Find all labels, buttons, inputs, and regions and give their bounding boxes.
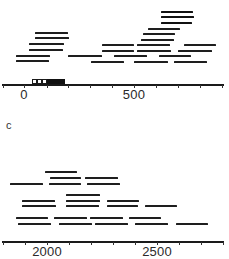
axis-tick [69,242,70,245]
clone-segment [137,50,171,52]
clone-segment [102,44,134,46]
axis-tick [3,242,4,245]
clone-segment [161,11,193,13]
clone-segment [161,22,192,24]
clone-segment [134,61,168,63]
clone-segment [66,200,100,202]
axis-tick [113,242,114,245]
clone-segment [90,217,123,219]
clone-segment [135,223,168,225]
clone-segment [35,32,68,34]
clone-segment [95,223,128,225]
axis-tick [135,242,136,245]
clone-segment [87,183,120,185]
clone-segment [54,217,87,219]
clone-segment [29,43,64,45]
axis-tick-label: 2000 [32,244,62,259]
axis-tick [90,85,91,88]
axis-tick [25,242,26,245]
axis-tick [179,242,180,245]
contig-map-figure: 0500 c 20002500 [0,0,229,259]
axis-tick-label: 500 [123,87,145,102]
clone-segment [148,28,180,30]
clone-segment [50,177,81,179]
clone-segment [114,55,147,57]
clone-segment [68,55,102,57]
panel-label-c: c [6,119,12,131]
clone-segment [10,183,43,185]
clone-segment [178,50,212,52]
clone-segment [129,217,161,219]
axis-tick [201,242,202,245]
axis-tick [223,242,224,245]
clone-segment [184,44,216,46]
axis-tick [112,85,113,88]
axis-line [2,84,224,86]
clone-segment [66,205,99,207]
clone-segment [45,171,77,173]
axis-tick-label: 2500 [142,244,172,259]
clone-segment [137,44,170,46]
clone-segment [159,55,191,57]
clone-segment [16,60,49,62]
axis-tick [68,85,69,88]
axis-tick [222,85,223,88]
clone-segment [16,217,48,219]
axis-tick [178,85,179,88]
axis-tick [91,242,92,245]
clone-segment [18,223,51,225]
clone-segment [141,39,174,41]
axis-tick [156,85,157,88]
clone-segment [59,223,92,225]
clone-segment [85,177,118,179]
clone-segment [49,183,81,185]
clone-segment [102,50,134,52]
axis-tick [200,85,201,88]
clone-segment [107,200,139,202]
clone-segment [176,223,208,225]
clone-segment [22,205,56,207]
axis-tick [47,85,48,88]
clone-segment [35,37,69,39]
scale-marker-filled-block [47,79,65,84]
clone-segment [161,16,194,18]
clone-segment [16,55,50,57]
clone-segment [66,194,100,196]
axis-tick [3,85,4,88]
clone-segment [29,49,63,51]
clone-segment [22,200,55,202]
clone-segment [145,205,177,207]
clone-segment [91,61,124,63]
clone-segment [107,205,138,207]
axis-tick-label: 0 [20,87,27,102]
clone-segment [174,61,207,63]
clone-segment [143,33,175,35]
